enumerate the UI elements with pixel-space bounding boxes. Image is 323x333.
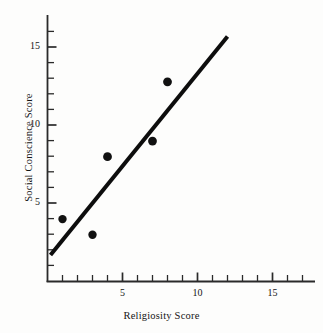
- x-axis-major-ticks: [123, 273, 273, 282]
- scatter-plot-figure: 5 10 15 5 10 15 Religiosity Score Social…: [0, 0, 323, 333]
- trend-line: [51, 37, 228, 255]
- x-tick-label-15: 15: [260, 287, 286, 298]
- data-point: [163, 77, 172, 86]
- data-point: [148, 137, 157, 146]
- data-point: [103, 152, 112, 161]
- y-tick-label-15: 15: [14, 40, 40, 51]
- y-axis-major-ticks: [48, 47, 57, 203]
- x-axis-title: Religiosity Score: [0, 310, 323, 321]
- x-axis-minor-ticks: [63, 275, 303, 282]
- y-axis-minor-ticks: [48, 31, 55, 265]
- data-point: [88, 231, 96, 239]
- plot-canvas: [0, 0, 323, 333]
- x-tick-label-5: 5: [110, 287, 136, 298]
- data-point: [58, 215, 66, 223]
- data-points: [58, 77, 172, 238]
- x-tick-label-10: 10: [185, 287, 211, 298]
- y-axis-title: Social Conscience Score: [23, 58, 34, 238]
